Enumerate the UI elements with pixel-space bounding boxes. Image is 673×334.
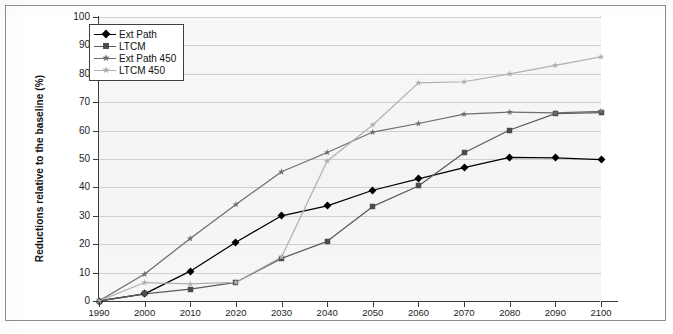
data-point-marker bbox=[142, 291, 147, 296]
x-tick-label: 2080 bbox=[490, 307, 530, 318]
series-line bbox=[99, 157, 601, 301]
x-tick-label: 2090 bbox=[535, 307, 575, 318]
plot-area: Ext PathLTCMExt Path 450LTCM 450 bbox=[99, 17, 601, 301]
y-axis-title: Reductions relative to the baseline (%) bbox=[34, 44, 45, 294]
data-point-marker bbox=[324, 239, 329, 244]
y-axis-title-container: Reductions relative to the baseline (%) bbox=[18, 20, 40, 300]
x-tick-label: 2020 bbox=[216, 307, 256, 318]
legend-label: Ext Path bbox=[119, 29, 157, 40]
y-tick-label: 10 bbox=[60, 268, 90, 278]
y-tick-mark bbox=[93, 17, 99, 18]
y-tick-label: 50 bbox=[60, 154, 90, 164]
data-point-marker bbox=[188, 286, 193, 291]
legend-label: Ext Path 450 bbox=[119, 53, 176, 64]
legend-item-ltcm-450[interactable]: LTCM 450 bbox=[94, 64, 176, 76]
y-tick-label: 70 bbox=[60, 97, 90, 107]
y-tick-label: 90 bbox=[60, 40, 90, 50]
x-tick-label: 1990 bbox=[79, 307, 119, 318]
y-tick-mark bbox=[93, 159, 99, 160]
series-line bbox=[99, 111, 601, 301]
series-line bbox=[99, 113, 601, 301]
y-tick-label: 100 bbox=[60, 12, 90, 22]
legend-item-ext-path-450[interactable]: Ext Path 450 bbox=[94, 52, 176, 64]
y-tick-mark bbox=[93, 102, 99, 103]
legend-label: LTCM bbox=[119, 41, 145, 52]
data-point-marker bbox=[416, 183, 421, 188]
data-point-marker bbox=[461, 150, 466, 155]
y-axis-tick-labels: 0102030405060708090100 bbox=[58, 0, 90, 334]
legend-marker-icon bbox=[94, 41, 116, 52]
y-tick-label: 30 bbox=[60, 211, 90, 221]
x-tick-label: 2040 bbox=[307, 307, 347, 318]
y-tick-label: 40 bbox=[60, 182, 90, 192]
legend-marker-icon bbox=[94, 65, 116, 76]
y-tick-label: 60 bbox=[60, 126, 90, 136]
y-tick-label: 0 bbox=[60, 296, 90, 306]
y-tick-label: 20 bbox=[60, 239, 90, 249]
data-point-marker bbox=[507, 127, 512, 132]
x-tick-label: 2060 bbox=[398, 307, 438, 318]
x-tick-label: 2050 bbox=[353, 307, 393, 318]
y-tick-mark bbox=[93, 273, 99, 274]
x-tick-label: 2000 bbox=[125, 307, 165, 318]
y-tick-mark bbox=[93, 301, 99, 302]
legend-item-ext-path[interactable]: Ext Path bbox=[94, 28, 176, 40]
figure-canvas: Reductions relative to the baseline (%) … bbox=[0, 0, 673, 334]
x-tick-label: 2070 bbox=[444, 307, 484, 318]
x-tick-label: 2010 bbox=[170, 307, 210, 318]
series-line bbox=[99, 57, 601, 301]
y-tick-mark bbox=[93, 131, 99, 132]
legend-label: LTCM 450 bbox=[119, 65, 165, 76]
y-tick-mark bbox=[93, 216, 99, 217]
x-tick-label: 2100 bbox=[581, 307, 621, 318]
y-tick-label: 80 bbox=[60, 69, 90, 79]
x-tick-label: 2030 bbox=[262, 307, 302, 318]
chart-legend: Ext PathLTCMExt Path 450LTCM 450 bbox=[89, 24, 184, 81]
data-point-marker bbox=[370, 204, 375, 209]
legend-marker-icon bbox=[94, 53, 116, 64]
y-tick-mark bbox=[93, 244, 99, 245]
x-axis-line bbox=[98, 301, 618, 302]
legend-marker-icon bbox=[94, 29, 116, 40]
legend-item-ltcm[interactable]: LTCM bbox=[94, 40, 176, 52]
y-tick-mark bbox=[93, 187, 99, 188]
